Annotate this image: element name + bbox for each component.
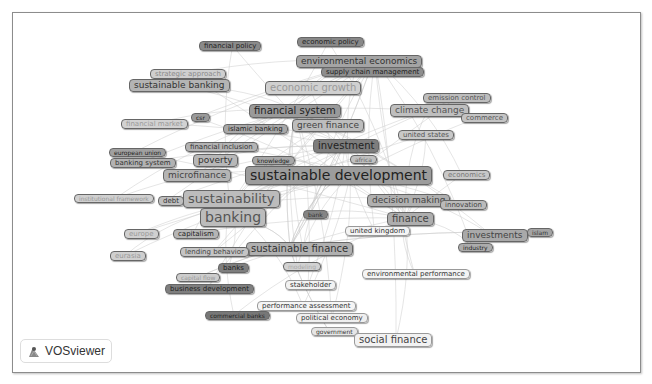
vosviewer-logo: VOSviewer	[20, 339, 112, 363]
node-finance[interactable]: finance	[387, 212, 434, 226]
node-europe[interactable]: europe	[124, 229, 159, 239]
node-financial-system[interactable]: financial system	[249, 104, 341, 118]
node-economic-policy[interactable]: economic policy	[297, 37, 364, 47]
node-commercial-banks[interactable]: commercial banks	[205, 311, 270, 320]
node-european-union[interactable]: european union	[109, 148, 166, 157]
node-political-economy[interactable]: political economy	[296, 313, 368, 323]
node-climate-change[interactable]: climate change	[390, 104, 469, 117]
node-sustainable-development[interactable]: sustainable development	[245, 166, 432, 185]
node-financial-policy[interactable]: financial policy	[199, 41, 261, 51]
node-united-states[interactable]: united states	[398, 130, 454, 140]
node-investment[interactable]: investment	[313, 139, 379, 153]
node-green-finance[interactable]: green finance	[292, 119, 364, 132]
node-innovation[interactable]: innovation	[440, 200, 487, 210]
node-economics[interactable]: economics	[443, 170, 490, 180]
node-decision-making[interactable]: decision making	[367, 194, 450, 207]
node-modeling[interactable]: modeling	[283, 262, 321, 271]
node-sustainable-banking[interactable]: sustainable banking	[129, 79, 230, 92]
node-bank[interactable]: bank	[303, 210, 328, 219]
node-investments[interactable]: investments	[462, 229, 528, 242]
node-environmental-economics[interactable]: environmental economics	[296, 55, 422, 68]
node-sustainability[interactable]: sustainability	[183, 190, 280, 208]
node-financial-market[interactable]: financial market	[121, 119, 188, 129]
node-emission-control[interactable]: emission control	[423, 93, 491, 103]
node-financial-inclusion[interactable]: financial inclusion	[185, 142, 258, 152]
node-commerce[interactable]: commerce	[461, 113, 508, 123]
node-debt[interactable]: debt	[158, 196, 184, 206]
node-economic-growth[interactable]: economic growth	[265, 81, 361, 95]
node-environmental-performance[interactable]: environmental performance	[362, 269, 470, 279]
node-banking-system[interactable]: banking system	[110, 158, 176, 168]
node-lending-behavior[interactable]: lending behavior	[180, 247, 249, 257]
node-banking[interactable]: banking	[200, 208, 266, 227]
node-africa[interactable]: africa	[350, 155, 377, 164]
node-social-finance[interactable]: social finance	[354, 333, 432, 347]
node-capital-flow[interactable]: capital flow	[176, 273, 220, 282]
node-islamic-banking[interactable]: islamic banking	[223, 124, 288, 134]
node-microfinance[interactable]: microfinance	[163, 169, 231, 182]
node-islam[interactable]: islam	[527, 228, 553, 237]
node-government[interactable]: government	[311, 327, 358, 336]
node-institutional-framework[interactable]: institutional framework	[74, 194, 154, 203]
node-industry[interactable]: industry	[458, 243, 493, 252]
node-stakeholder[interactable]: stakeholder	[285, 280, 336, 290]
node-united-kingdom[interactable]: united kingdom	[345, 226, 410, 236]
node-csr[interactable]: csr	[191, 113, 210, 122]
node-capitalism[interactable]: capitalism	[173, 229, 219, 239]
node-poverty[interactable]: poverty	[193, 154, 238, 167]
node-strategic-approach[interactable]: strategic approach	[150, 69, 226, 79]
node-banks[interactable]: banks	[218, 263, 249, 273]
node-supply-chain-management[interactable]: supply chain management	[321, 67, 424, 77]
node-business-development[interactable]: business development	[165, 284, 254, 294]
node-knowledge[interactable]: knowledge	[252, 156, 295, 165]
vosviewer-logo-icon	[27, 344, 41, 358]
vosviewer-logo-text: VOSviewer	[45, 344, 105, 358]
node-sustainable-finance[interactable]: sustainable finance	[246, 242, 353, 256]
node-eurasia[interactable]: eurasia	[110, 251, 146, 261]
node-performance-assessment[interactable]: performance assessment	[257, 301, 356, 311]
